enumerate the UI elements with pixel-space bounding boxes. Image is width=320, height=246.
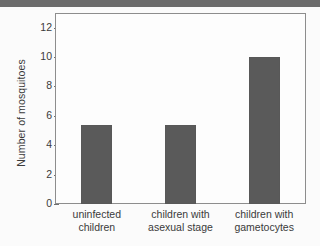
bar-2 [249, 57, 280, 204]
bar-chart-figure: Number of mosquitoes 024681012 uninfecte… [0, 7, 320, 246]
y-tick-label: 10 [40, 50, 52, 62]
y-tick-label: 4 [46, 138, 52, 150]
y-tick-label: 2 [46, 168, 52, 180]
y-axis-title: Number of mosquitoes [15, 43, 27, 183]
y-tick-label: 6 [46, 109, 52, 121]
x-label-line2: asexual stage [139, 221, 223, 234]
x-tick-label-2: children withgametocytes [222, 208, 306, 234]
y-tick-label: 12 [40, 21, 52, 33]
y-tick-mark [54, 204, 59, 205]
x-label-line1: children with [151, 208, 209, 220]
x-label-line1: children with [235, 208, 293, 220]
x-tick-label-1: children withasexual stage [139, 208, 223, 234]
y-tick-label: 8 [46, 79, 52, 91]
bar-0 [81, 125, 112, 204]
x-tick-label-0: uninfectedchildren [55, 208, 139, 234]
bar-1 [165, 125, 196, 204]
page-top-band [0, 0, 320, 7]
x-label-line2: gametocytes [222, 221, 306, 234]
y-tick-label: 0 [46, 197, 52, 209]
x-label-line2: children [55, 221, 139, 234]
x-label-line1: uninfected [73, 208, 121, 220]
